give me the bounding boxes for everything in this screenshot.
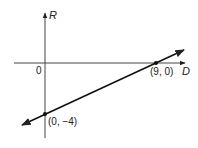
point-label-d-intercept: (9, 0) — [150, 66, 173, 77]
point-r-intercept — [43, 112, 47, 116]
d-axis-label: D — [182, 65, 190, 77]
origin-label: 0 — [36, 65, 42, 76]
point-d-intercept — [154, 61, 158, 65]
r-axis-label: R — [49, 9, 57, 21]
line-graph-figure: R D 0 (9, 0) (0, −4) — [0, 0, 198, 148]
point-label-r-intercept: (0, −4) — [48, 116, 77, 127]
